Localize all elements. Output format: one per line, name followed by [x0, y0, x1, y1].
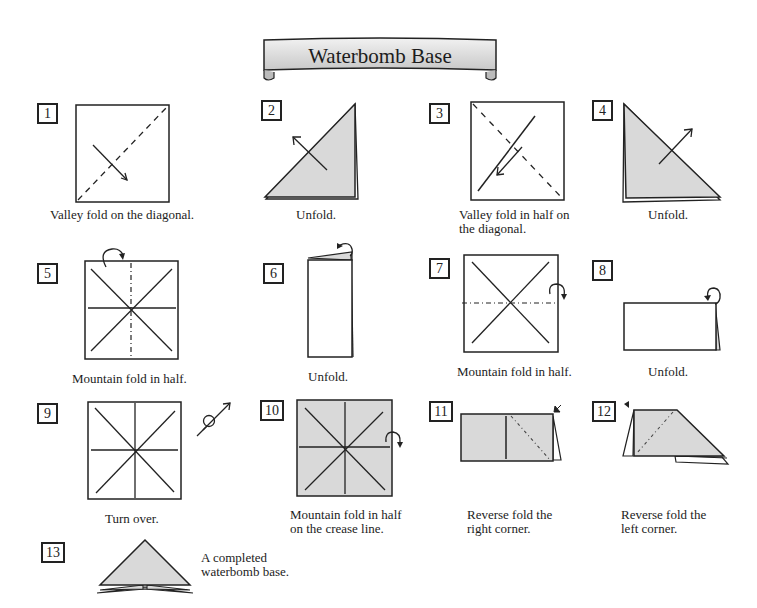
step-11-caption: Reverse fold the right corner.: [467, 508, 552, 536]
step-2-caption: Unfold.: [296, 208, 336, 222]
step-3-caption: Valley fold in half on the diagonal.: [459, 208, 569, 236]
step-4-number: 4: [592, 100, 613, 121]
step-2-diagram: [260, 100, 370, 210]
step-13-number: 13: [41, 542, 65, 563]
step-6-caption: Unfold.: [308, 370, 348, 384]
step-7-diagram: [460, 250, 570, 360]
step-1-diagram: [70, 100, 180, 210]
step-9-diagram: [85, 398, 185, 508]
step-1-number: 1: [37, 103, 58, 124]
step-12-caption: Reverse fold the left corner.: [621, 508, 706, 536]
step-1-caption: Valley fold on the diagonal.: [50, 208, 194, 222]
step-5-caption: Mountain fold in half.: [72, 372, 187, 386]
step-8-caption: Unfold.: [648, 365, 688, 379]
step-9-caption: Turn over.: [105, 512, 159, 526]
step-5-number: 5: [37, 263, 58, 284]
step-10-number: 10: [260, 400, 284, 421]
step-3-number: 3: [429, 103, 450, 124]
step-5-diagram: [80, 245, 190, 365]
step-13-caption: A completed waterbomb base.: [201, 551, 289, 579]
step-6-diagram: [300, 243, 360, 368]
step-8-number: 8: [592, 260, 613, 281]
turn-over-icon: [195, 400, 235, 440]
step-7-number: 7: [429, 258, 450, 279]
step-6-number: 6: [263, 263, 284, 284]
step-13-diagram: [95, 535, 195, 595]
step-12-diagram: [620, 398, 730, 473]
step-4-caption: Unfold.: [648, 208, 688, 222]
step-11-diagram: [458, 408, 568, 468]
step-11-number: 11: [429, 401, 453, 422]
step-12-number: 12: [592, 401, 616, 422]
step-3-diagram: [468, 100, 578, 210]
step-10-diagram: [295, 398, 415, 508]
step-9-number: 9: [37, 403, 58, 424]
step-10-caption: Mountain fold in half on the crease line…: [290, 508, 402, 536]
step-7-caption: Mountain fold in half.: [457, 365, 572, 379]
step-8-diagram: [620, 280, 730, 355]
step-4-diagram: [620, 100, 730, 210]
page-title: Waterbomb Base: [258, 42, 502, 70]
